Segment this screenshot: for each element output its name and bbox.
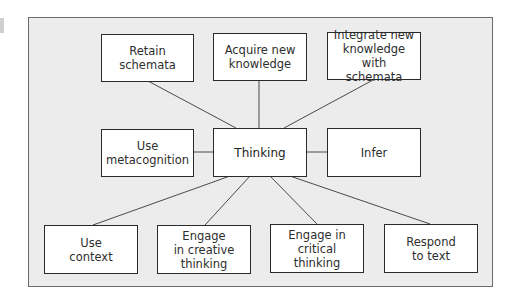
node-thinking-center: Thinking <box>213 128 307 177</box>
node-retain-schemata: Retain schemata <box>101 34 194 82</box>
node-use-metacognition: Use metacognition <box>101 129 194 177</box>
node-respond-to-text: Respond to text <box>384 224 478 273</box>
node-engage-creative-thinking: Engage in creative thinking <box>157 225 251 274</box>
node-infer: Infer <box>327 128 421 177</box>
page-edge-mark <box>0 18 4 33</box>
node-integrate-new-knowledge: Integrate new knowledge with schemata <box>327 32 421 80</box>
node-use-context: Use context <box>44 225 138 274</box>
node-engage-critical-thinking: Engage in critical thinking <box>270 224 364 273</box>
node-acquire-new-knowledge: Acquire new knowledge <box>213 33 307 81</box>
